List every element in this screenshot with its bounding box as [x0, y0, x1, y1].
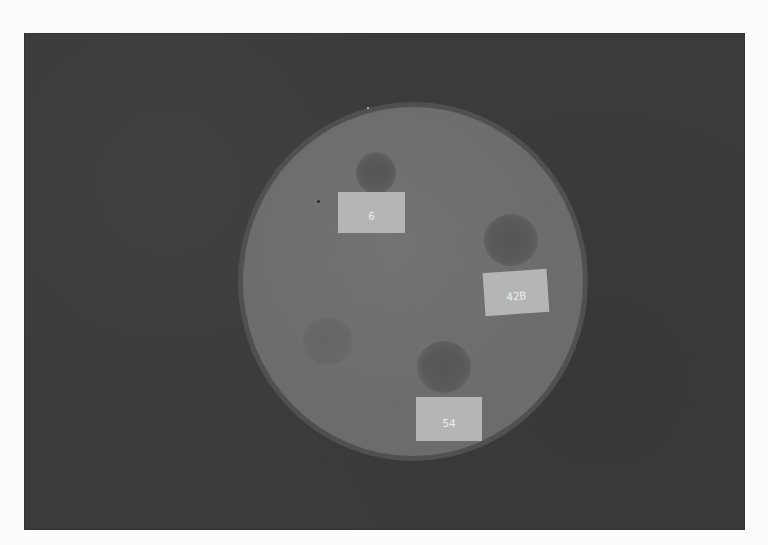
plate-label-6: 6	[338, 192, 405, 233]
scene: 6 42B 54	[0, 0, 768, 545]
spot-near-label-6	[356, 152, 396, 194]
faint-spot-left	[303, 317, 353, 365]
label-text: 42B	[506, 289, 527, 303]
speck	[317, 200, 320, 203]
plate-label-42b: 42B	[483, 269, 550, 316]
spot-near-label-54	[417, 341, 471, 393]
label-text: 54	[442, 417, 455, 430]
plate-label-54: 54	[416, 397, 482, 441]
speck	[367, 107, 369, 109]
spot-near-label-42b	[484, 214, 538, 266]
label-text: 6	[368, 210, 375, 223]
